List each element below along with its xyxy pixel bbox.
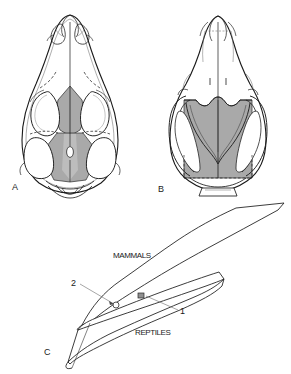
label-marker-one: 1: [180, 306, 185, 316]
marker-one-symbol: [138, 293, 144, 298]
marker-two-symbol: [113, 302, 119, 308]
panel-a-letter: A: [12, 182, 18, 192]
label-marker-two: 2: [71, 278, 76, 288]
figure-svg: A: [0, 0, 291, 374]
taxon-label-reptiles: REPTILES: [135, 328, 171, 337]
naris-left-a: [51, 24, 65, 44]
panel-b-mammal-skull: B: [158, 16, 267, 196]
panel-c-letter: C: [44, 347, 51, 357]
stem-line-inner: [72, 323, 90, 368]
panel-a-reptile-skull: A: [12, 15, 120, 198]
occiput-b: [190, 178, 246, 187]
panel-c-evolution-diagram: 2 1 MAMMALS REPTILES C: [44, 203, 284, 369]
panel-b-letter: B: [158, 184, 164, 194]
occipital-condyles-b: [199, 188, 237, 196]
figure-container: A: [0, 0, 291, 374]
taxon-label-mammals: MAMMALS: [113, 251, 151, 260]
naris-right-a: [75, 24, 89, 44]
pineal-foramen-a: [67, 147, 74, 158]
